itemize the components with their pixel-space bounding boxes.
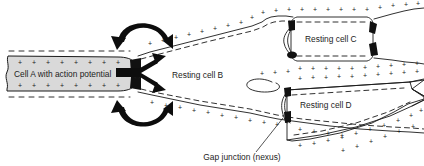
svg-text:+: + <box>369 138 373 145</box>
svg-text:+: + <box>248 117 252 124</box>
svg-text:+: + <box>397 128 401 135</box>
svg-text:+: + <box>350 73 354 80</box>
svg-text:+: + <box>148 40 152 47</box>
svg-text:+: + <box>324 74 328 81</box>
svg-text:+: + <box>298 126 302 133</box>
svg-text:+: + <box>273 69 277 76</box>
svg-text:+: + <box>415 60 419 67</box>
svg-text:+: + <box>313 6 317 13</box>
svg-text:+: + <box>187 31 191 38</box>
svg-text:+: + <box>46 82 50 89</box>
svg-text:+: + <box>260 70 264 77</box>
svg-text:+: + <box>102 59 106 66</box>
svg-text:+: + <box>32 59 36 66</box>
svg-text:+: + <box>164 102 168 109</box>
svg-text:+: + <box>74 59 78 66</box>
svg-text:+: + <box>312 140 316 147</box>
svg-text:+: + <box>46 59 50 66</box>
svg-text:+: + <box>274 7 278 14</box>
svg-text:+: + <box>298 65 302 72</box>
svg-text:+: + <box>389 70 393 77</box>
svg-text:+: + <box>326 6 330 13</box>
cell-a-label: Cell A with action potential <box>14 69 111 79</box>
svg-text:+: + <box>340 132 344 139</box>
svg-text:+: + <box>368 126 372 133</box>
svg-text:+: + <box>382 122 386 129</box>
svg-text:+: + <box>18 82 22 89</box>
svg-text:+: + <box>324 65 328 72</box>
svg-text:+: + <box>88 82 92 89</box>
svg-text:+: + <box>355 143 359 150</box>
svg-text:+: + <box>161 37 165 44</box>
svg-text:+: + <box>192 107 196 114</box>
svg-text:+: + <box>32 82 36 89</box>
svg-text:+: + <box>409 112 413 119</box>
svg-text:+: + <box>206 109 210 116</box>
gap-junction-label: Gap junction (nexus) <box>203 152 280 162</box>
cell-c-outer-charges-top: ++ ++ ++ ++ ++ <box>300 0 420 13</box>
svg-text:+: + <box>287 6 291 13</box>
svg-text:+: + <box>200 28 204 35</box>
cell-d-inner-charges: ++ ++ ++ ++ ++ <box>298 68 419 82</box>
cell-b-inner-fold <box>247 79 280 92</box>
svg-text:+: + <box>350 65 354 72</box>
cell-c-label: Resting cell C <box>305 34 357 44</box>
svg-text:+: + <box>396 117 400 124</box>
gap-junction-leader <box>256 118 283 152</box>
svg-text:+: + <box>391 2 395 9</box>
svg-text:+: + <box>311 74 315 81</box>
svg-text:+: + <box>298 75 302 82</box>
svg-text:+: + <box>352 6 356 13</box>
svg-text:+: + <box>341 147 345 154</box>
svg-text:+: + <box>60 82 64 89</box>
svg-text:+: + <box>234 114 238 121</box>
svg-text:+: + <box>220 112 224 119</box>
svg-text:+: + <box>378 4 382 11</box>
cell-b-label: Resting cell B <box>172 70 224 80</box>
svg-text:+: + <box>226 22 230 29</box>
svg-text:+: + <box>416 0 420 7</box>
svg-text:+: + <box>363 72 367 79</box>
svg-text:+: + <box>326 130 330 137</box>
diagram-canvas: ++ ++ ++ ++ ++ ++ ++ ++ ++ ++ ++ ++ ++ +… <box>0 0 424 166</box>
svg-text:+: + <box>298 142 302 149</box>
svg-text:+: + <box>60 59 64 66</box>
cell-d-label: Resting cell D <box>300 100 352 110</box>
svg-text:+: + <box>250 14 254 21</box>
svg-text:+: + <box>383 133 387 140</box>
svg-text:+: + <box>312 128 316 135</box>
svg-text:+: + <box>300 6 304 13</box>
svg-text:+: + <box>178 104 182 111</box>
svg-text:+: + <box>174 34 178 41</box>
svg-text:+: + <box>213 25 217 32</box>
svg-text:+: + <box>415 68 419 75</box>
svg-text:+: + <box>286 68 290 75</box>
svg-text:+: + <box>88 59 92 66</box>
svg-text:+: + <box>402 69 406 76</box>
cardiac-gap-junction-figure: ++ ++ ++ ++ ++ ++ ++ ++ ++ ++ ++ ++ ++ +… <box>0 0 424 166</box>
svg-text:+: + <box>354 130 358 137</box>
svg-text:+: + <box>150 99 154 106</box>
svg-text:+: + <box>326 137 330 144</box>
svg-text:+: + <box>102 82 106 89</box>
svg-text:+: + <box>116 59 120 66</box>
svg-text:+: + <box>116 82 120 89</box>
svg-text:+: + <box>311 65 315 72</box>
svg-text:+: + <box>402 61 406 68</box>
svg-text:+: + <box>337 65 341 72</box>
svg-text:+: + <box>404 1 408 8</box>
svg-text:+: + <box>239 19 243 26</box>
svg-text:+: + <box>262 119 266 126</box>
svg-text:+: + <box>18 59 22 66</box>
svg-text:+: + <box>74 82 78 89</box>
svg-text:+: + <box>389 62 393 69</box>
svg-text:+: + <box>261 9 265 16</box>
svg-text:+: + <box>376 63 380 70</box>
svg-text:+: + <box>365 6 369 13</box>
svg-text:+: + <box>376 71 380 78</box>
svg-text:+: + <box>337 73 341 80</box>
svg-text:+: + <box>339 6 343 13</box>
svg-text:+: + <box>419 107 423 114</box>
svg-text:+: + <box>363 64 367 71</box>
svg-text:+: + <box>411 123 415 130</box>
